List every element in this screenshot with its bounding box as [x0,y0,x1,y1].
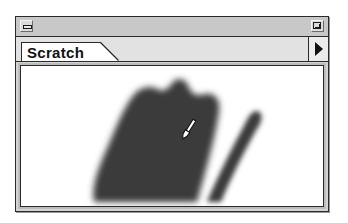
scratch-canvas-frame [20,65,324,207]
right-triangle-arrow-icon [315,42,323,56]
zoom-box-icon [313,22,321,29]
zoom-box-button[interactable] [311,20,324,32]
tab-bar: Scratch [16,37,328,62]
tab-scroll-right-button[interactable] [308,37,328,61]
tab-label: Scratch [27,44,84,61]
close-box-icon [23,25,32,29]
close-box-button[interactable] [20,20,33,32]
paint-strokes [93,79,261,202]
tab-scratch[interactable]: Scratch [21,42,101,61]
paint-canvas[interactable] [21,66,323,206]
title-bar[interactable] [16,17,328,37]
scratch-window: Scratch [15,16,329,212]
tab-slant-edge [100,42,120,61]
